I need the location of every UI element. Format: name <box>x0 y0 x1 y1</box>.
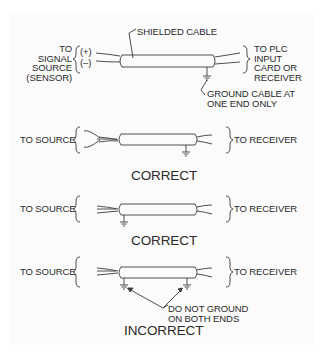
top-left-brace <box>73 46 80 73</box>
example3-cable <box>73 257 233 308</box>
example1-cable <box>73 127 233 156</box>
example1-source-label: TO SOURCE <box>20 135 75 146</box>
example3-verdict: INCORRECT <box>124 324 203 338</box>
signal-source-label-line4: (SENSOR) <box>14 73 72 84</box>
example2-receiver-label: TO RECEIVER <box>234 204 297 215</box>
example1-receiver-label: TO RECEIVER <box>234 135 297 146</box>
polarity-positive: (+) <box>80 47 92 58</box>
shielded-cable-label: SHIELDED CABLE <box>137 27 217 38</box>
example2-source-label: TO SOURCE <box>20 204 75 215</box>
example3-source-label: TO SOURCE <box>20 267 75 278</box>
plc-input-label-line4: RECEIVER <box>254 73 302 84</box>
example1-verdict: CORRECT <box>131 169 197 183</box>
polarity-negative: (–) <box>80 58 91 69</box>
example2-verdict: CORRECT <box>131 234 197 248</box>
example3-receiver-label: TO RECEIVER <box>234 267 297 278</box>
top-right-brace <box>243 46 250 73</box>
example2-cable <box>73 196 233 226</box>
ground-note-line2: ONE END ONLY <box>207 99 277 110</box>
